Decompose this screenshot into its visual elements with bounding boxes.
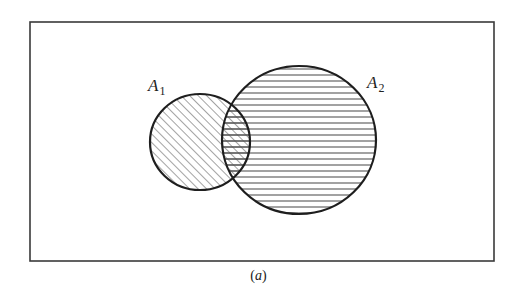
- caption-letter: a: [255, 268, 262, 283]
- set-a2-label: A2: [366, 73, 384, 95]
- venn-diagram: A1 A2: [0, 0, 517, 296]
- caption-close-paren: ): [262, 268, 267, 283]
- figure-caption: (a): [0, 268, 517, 284]
- set-a1-label: A1: [147, 76, 165, 98]
